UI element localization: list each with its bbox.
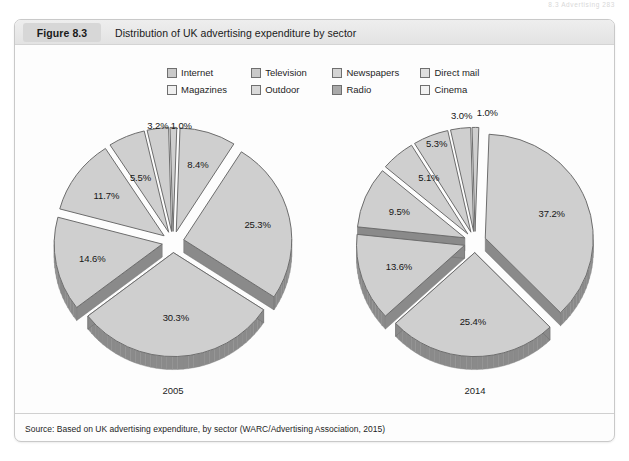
- pie-slice-label: 30.3%: [163, 312, 189, 323]
- charts-area: 2005 8.4%25.3%30.3%14.6%11.7%5.5%3.2%1.0…: [15, 102, 614, 402]
- legend-label-direct-mail: Direct mail: [434, 67, 479, 78]
- pie-slice-label: 5.3%: [426, 137, 447, 148]
- legend-label-television: Television: [265, 67, 307, 78]
- legend-item-cinema: Cinema: [420, 84, 497, 95]
- legend-label-internet: Internet: [181, 67, 213, 78]
- legend-label-radio: Radio: [346, 84, 371, 95]
- legend-swatch-magazines: [167, 85, 177, 95]
- pie-svg-2014: [335, 102, 615, 402]
- figure-source: Source: Based on UK advertising expendit…: [25, 424, 385, 434]
- figure-card: Figure 8.3 Distribution of UK advertisin…: [14, 19, 615, 442]
- pie-slice-label: 8.4%: [187, 159, 208, 170]
- legend-swatch-internet: [167, 68, 177, 78]
- pie-slice-label: 1.0%: [477, 107, 498, 118]
- legend-row-1: Internet Television Newspapers Direct ma…: [167, 64, 497, 81]
- pie-year-label-2014: 2014: [335, 385, 615, 396]
- legend-item-newspapers: Newspapers: [332, 67, 420, 78]
- pie-chart-2014: 2014 37.2%25.4%13.6%9.5%5.1%5.3%3.0%1.0%: [335, 102, 615, 402]
- legend-label-cinema: Cinema: [434, 84, 467, 95]
- pie-slice-label: 13.6%: [386, 261, 412, 272]
- pie-year-label-2005: 2005: [33, 385, 313, 396]
- pie-slice-label: 37.2%: [539, 208, 565, 219]
- legend-item-direct-mail: Direct mail: [420, 67, 497, 78]
- pie-slice-label: 3.0%: [451, 110, 472, 121]
- legend-item-radio: Radio: [332, 84, 420, 95]
- legend-item-internet: Internet: [167, 67, 251, 78]
- legend-label-magazines: Magazines: [181, 84, 227, 95]
- chart-legend: Internet Television Newspapers Direct ma…: [167, 64, 497, 98]
- footer-divider: [15, 413, 614, 414]
- pie-slice-label: 25.4%: [460, 316, 486, 327]
- pie-slice-label: 9.5%: [389, 205, 410, 216]
- pie-slice-label: 5.1%: [418, 172, 439, 183]
- legend-swatch-television: [251, 68, 261, 78]
- legend-swatch-direct-mail: [420, 68, 430, 78]
- legend-label-outdoor: Outdoor: [265, 84, 299, 95]
- figure-number: Figure 8.3: [23, 23, 101, 42]
- pie-slice-label: 1.0%: [171, 119, 192, 130]
- pie-slice-label: 11.7%: [94, 190, 120, 201]
- legend-item-magazines: Magazines: [167, 84, 251, 95]
- pie-slice-label: 14.6%: [79, 252, 105, 263]
- pie-svg-2005: [33, 102, 313, 402]
- legend-swatch-newspapers: [332, 68, 342, 78]
- pie-slice-label: 5.5%: [130, 171, 151, 182]
- figure-header: Figure 8.3 Distribution of UK advertisin…: [15, 20, 614, 45]
- pie-slice-label: 25.3%: [244, 219, 270, 230]
- pie-slice-label: 3.2%: [147, 120, 168, 131]
- running-head: 8.3 Advertising 283: [548, 1, 615, 8]
- legend-label-newspapers: Newspapers: [346, 67, 399, 78]
- pie-chart-2005: 2005 8.4%25.3%30.3%14.6%11.7%5.5%3.2%1.0…: [33, 102, 313, 402]
- legend-swatch-outdoor: [251, 85, 261, 95]
- legend-item-television: Television: [251, 67, 332, 78]
- legend-swatch-radio: [332, 85, 342, 95]
- legend-row-2: Magazines Outdoor Radio Cinema: [167, 81, 497, 98]
- legend-swatch-cinema: [420, 85, 430, 95]
- figure-title: Distribution of UK advertising expenditu…: [115, 20, 356, 45]
- legend-item-outdoor: Outdoor: [251, 84, 332, 95]
